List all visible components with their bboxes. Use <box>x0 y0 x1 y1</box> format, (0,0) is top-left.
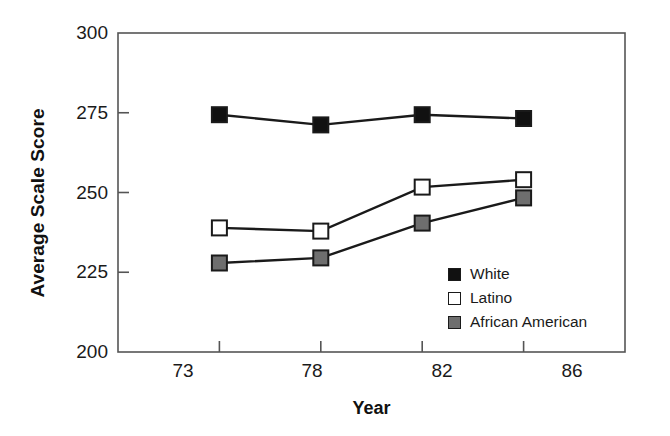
data-point-marker <box>212 220 227 235</box>
series-white <box>212 107 531 132</box>
y-axis-ticks <box>118 113 129 273</box>
series-african-american <box>212 190 531 270</box>
chart-figure: Average Scale Score 300 275 250 225 200 … <box>0 0 670 436</box>
data-point-marker <box>212 107 227 122</box>
series-latino <box>212 172 531 238</box>
data-point-marker <box>313 224 328 239</box>
legend-swatch-african-american-icon <box>448 316 461 329</box>
plot-canvas <box>0 0 670 436</box>
data-point-marker <box>415 216 430 231</box>
legend-label-african-american: African American <box>470 313 587 331</box>
series-layer <box>212 107 531 270</box>
data-point-marker <box>313 250 328 265</box>
data-point-marker <box>212 256 227 271</box>
legend-swatch-latino-icon <box>448 292 461 305</box>
legend-item-latino: Latino <box>448 286 587 310</box>
data-point-marker <box>313 117 328 132</box>
data-point-marker <box>415 180 430 195</box>
legend-swatch-white-icon <box>448 268 461 281</box>
series-line <box>219 180 523 231</box>
legend-label-white: White <box>470 265 510 283</box>
legend: White Latino African American <box>448 262 587 334</box>
legend-label-latino: Latino <box>470 289 512 307</box>
data-point-marker <box>516 190 531 205</box>
series-line <box>219 115 523 125</box>
data-point-marker <box>415 107 430 122</box>
legend-item-white: White <box>448 262 587 286</box>
data-point-marker <box>516 172 531 187</box>
x-axis-ticks <box>219 341 523 352</box>
data-point-marker <box>516 111 531 126</box>
legend-item-african-american: African American <box>448 310 587 334</box>
